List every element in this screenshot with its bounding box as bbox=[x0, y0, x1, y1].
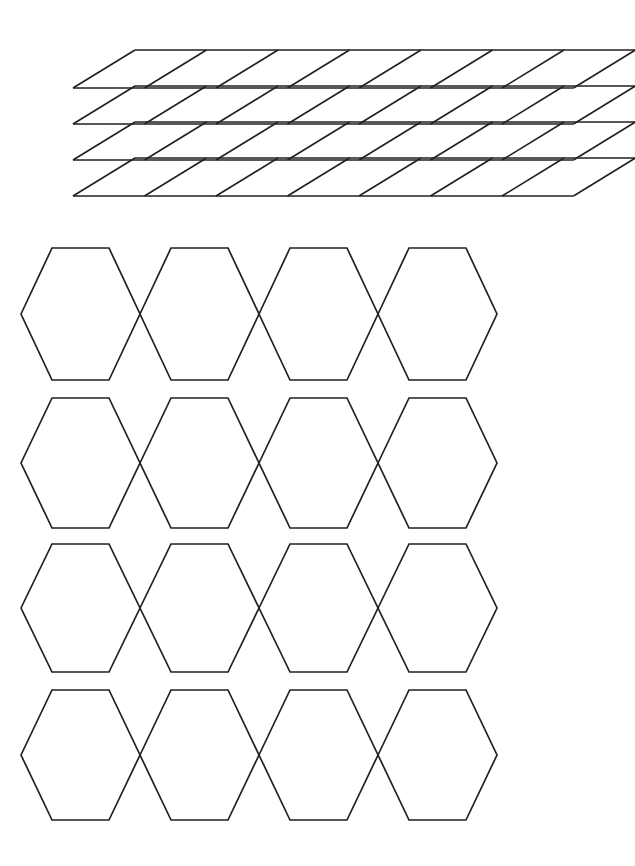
hexagon-r2-c2 bbox=[140, 398, 259, 528]
hexagon-r1-c4 bbox=[378, 248, 497, 380]
rhombus-grid-slant-r3-c7 bbox=[502, 122, 564, 160]
rhombus-grid-slant-r4-c3 bbox=[216, 158, 278, 196]
hexagon-r2-c3 bbox=[259, 398, 378, 528]
rhombus-grid-slant-r4-c1 bbox=[73, 158, 135, 196]
rhombus-grid-slant-r2-c2 bbox=[145, 86, 207, 124]
rhombus-grid-slant-r2-c5 bbox=[359, 86, 421, 124]
hexagon-r1-c1 bbox=[21, 248, 140, 380]
rhombus-grid-slant-r3-c8 bbox=[574, 122, 635, 160]
hexagon-r3-c2 bbox=[140, 544, 259, 672]
worksheet-page bbox=[0, 0, 635, 866]
rhombus-grid-slant-r2-c8 bbox=[574, 86, 635, 124]
rhombus-grid-slant-r2-c7 bbox=[502, 86, 564, 124]
hexagon-r3-c3 bbox=[259, 544, 378, 672]
hexagon-r3-c4 bbox=[378, 544, 497, 672]
rhombus-grid-slant-r1-c1 bbox=[73, 50, 135, 88]
rhombus-grid-slant-r1-c7 bbox=[502, 50, 564, 88]
hexagon-r1-c3 bbox=[259, 248, 378, 380]
rhombus-grid-slant-r2-c3 bbox=[216, 86, 278, 124]
hexagon-r4-c3 bbox=[259, 690, 378, 820]
rhombus-grid-slant-r1-c2 bbox=[145, 50, 207, 88]
rhombus-grid-slant-r4-c4 bbox=[288, 158, 350, 196]
rhombus-grid-slant-r4-c5 bbox=[359, 158, 421, 196]
rhombus-grid-slant-r2-c4 bbox=[288, 86, 350, 124]
rhombus-grid-slant-r4-c8 bbox=[574, 158, 635, 196]
tessellation-figure-canvas bbox=[0, 0, 635, 866]
hexagon-tiling bbox=[21, 248, 497, 820]
rhombus-grid-slant-r1-c8 bbox=[574, 50, 635, 88]
rhombus-grid-slant-r4-c6 bbox=[431, 158, 493, 196]
rhombus-grid-slant-r2-c6 bbox=[431, 86, 493, 124]
hexagon-r4-c2 bbox=[140, 690, 259, 820]
rhombus-grid-slant-r3-c3 bbox=[216, 122, 278, 160]
hexagon-r4-c4 bbox=[378, 690, 497, 820]
hexagon-r2-c4 bbox=[378, 398, 497, 528]
rhombus-grid-slant-r4-c7 bbox=[502, 158, 564, 196]
rhombus-grid-slant-r3-c5 bbox=[359, 122, 421, 160]
rhombus-grid-slant-r3-c1 bbox=[73, 122, 135, 160]
rhombus-grid-slant-r1-c6 bbox=[431, 50, 493, 88]
rhombus-grid bbox=[73, 50, 635, 196]
rhombus-grid-slant-r3-c2 bbox=[145, 122, 207, 160]
rhombus-grid-slant-r1-c3 bbox=[216, 50, 278, 88]
hexagon-r2-c1 bbox=[21, 398, 140, 528]
hexagon-r4-c1 bbox=[21, 690, 140, 820]
hexagon-r3-c1 bbox=[21, 544, 140, 672]
rhombus-grid-slant-r2-c1 bbox=[73, 86, 135, 124]
rhombus-grid-slant-r1-c5 bbox=[359, 50, 421, 88]
rhombus-grid-slant-r1-c4 bbox=[288, 50, 350, 88]
rhombus-grid-slant-r4-c2 bbox=[145, 158, 207, 196]
rhombus-grid-slant-r3-c6 bbox=[431, 122, 493, 160]
hexagon-r1-c2 bbox=[140, 248, 259, 380]
rhombus-grid-slant-r3-c4 bbox=[288, 122, 350, 160]
